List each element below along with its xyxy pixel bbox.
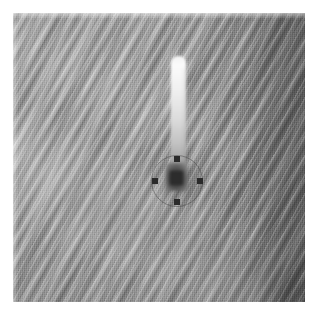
fiducial-marker-top xyxy=(174,156,180,162)
fiducial-marker-bottom xyxy=(174,199,180,205)
terrain-right-dark-band xyxy=(245,13,305,302)
fiducial-marker-right xyxy=(197,178,203,184)
plate-top-fade xyxy=(13,13,305,19)
image-plate xyxy=(13,13,305,302)
plate-left-fade xyxy=(13,13,18,302)
fiducial-marker-left xyxy=(152,178,158,184)
bright-streak xyxy=(171,56,186,168)
image-viewer xyxy=(0,0,318,317)
